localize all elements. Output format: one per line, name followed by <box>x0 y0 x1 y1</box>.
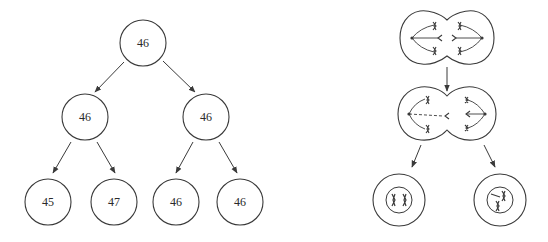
lagging-chromosome-fiber <box>409 114 443 116</box>
arrow-middle-to-right-daughter <box>484 145 495 167</box>
arrow-left-to-leaf1 <box>53 142 71 173</box>
arrow-left-to-leaf2 <box>97 142 115 173</box>
chromosome-number-tree: 46 46 46 45 47 46 <box>25 20 263 225</box>
node-label: 46 <box>234 195 246 209</box>
cell-membrane <box>373 174 425 226</box>
tree-node-level2-right: 46 <box>183 94 229 140</box>
chromosome-icon <box>392 194 406 206</box>
tree-node-level2-left: 46 <box>62 94 108 140</box>
dividing-cell-middle <box>398 87 496 140</box>
node-label: 46 <box>137 36 149 50</box>
arrow-middle-to-left-daughter <box>412 145 421 167</box>
chromosome-icon <box>433 22 461 55</box>
chromosome-icon <box>491 191 505 211</box>
arrow-right-to-leaf3 <box>176 142 193 173</box>
tree-node-leaf-3: 46 <box>153 179 199 225</box>
diagram-svg: 46 46 46 45 47 46 <box>0 0 548 242</box>
tree-node-leaf-1: 45 <box>25 179 71 225</box>
node-label: 46 <box>170 195 182 209</box>
nucleus <box>386 187 412 213</box>
node-label: 47 <box>108 195 120 209</box>
tree-node-leaf-2: 47 <box>91 179 137 225</box>
node-label: 46 <box>200 110 212 124</box>
arrow-root-to-right <box>163 61 195 92</box>
tree-node-root: 46 <box>120 20 166 66</box>
arrow-right-to-leaf4 <box>219 142 237 173</box>
cell-membrane <box>398 87 496 140</box>
daughter-cell-right <box>474 174 526 226</box>
arrow-root-to-left <box>95 62 124 92</box>
chromosome-icon <box>426 96 470 133</box>
nucleus <box>487 187 513 213</box>
cell-division-illustration <box>373 11 526 226</box>
tree-node-leaf-4: 46 <box>217 179 263 225</box>
cell-membrane <box>400 11 494 64</box>
daughter-cell-left <box>373 174 425 226</box>
diagram-canvas: 46 46 46 45 47 46 <box>0 0 548 242</box>
node-label: 46 <box>79 110 91 124</box>
node-label: 45 <box>42 195 54 209</box>
dividing-cell-top <box>400 11 494 64</box>
cell-membrane <box>474 174 526 226</box>
